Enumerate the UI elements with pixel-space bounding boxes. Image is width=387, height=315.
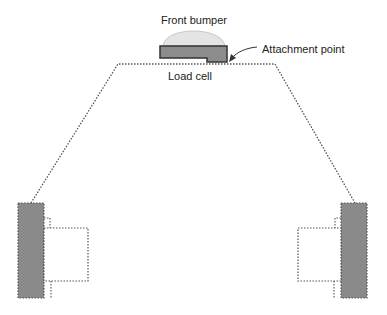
right-wheel-assembly bbox=[298, 203, 367, 298]
left-wheel bbox=[18, 203, 44, 298]
left-motor bbox=[44, 228, 88, 281]
right-motor bbox=[298, 228, 341, 281]
right-wheel bbox=[341, 203, 367, 298]
load-cell bbox=[160, 46, 227, 62]
left-wheel-assembly bbox=[18, 203, 88, 298]
left-bracket bbox=[44, 218, 50, 228]
chassis-outline bbox=[31, 64, 355, 203]
right-bracket bbox=[335, 218, 341, 228]
robot-bumper-diagram: Front bumper Attachment point Load cell bbox=[0, 0, 387, 315]
attachment-arrow bbox=[232, 47, 257, 58]
label-load-cell: Load cell bbox=[168, 70, 212, 82]
label-front-bumper: Front bumper bbox=[161, 14, 227, 26]
label-attachment-point: Attachment point bbox=[262, 43, 345, 55]
front-bumper bbox=[163, 31, 225, 46]
